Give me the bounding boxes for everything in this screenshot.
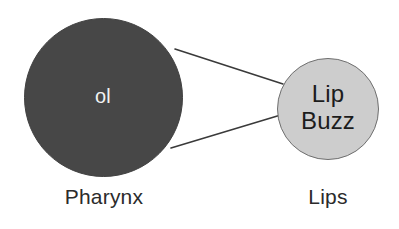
connector-line-upper: [175, 49, 283, 84]
node-pharynx[interactable]: ol: [24, 18, 183, 177]
node-lips[interactable]: Lip Buzz: [277, 58, 379, 160]
connector-line-lower: [171, 114, 284, 148]
diagram-canvas: ol Lip Buzz Pharynx Lips: [0, 0, 399, 229]
node-lips-label: Lip Buzz: [301, 81, 355, 135]
caption-pharynx: Pharynx: [0, 185, 208, 209]
caption-lips: Lips: [268, 185, 388, 209]
node-pharynx-label: ol: [95, 85, 111, 107]
